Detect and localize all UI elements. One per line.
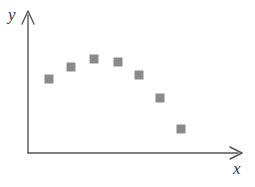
data-point-marker	[45, 75, 54, 84]
data-point-marker	[156, 94, 165, 103]
x-axis-label: x	[233, 160, 241, 177]
scatter-plot-figure: y x	[0, 0, 255, 187]
y-axis-label: y	[8, 6, 16, 23]
data-point-marker	[135, 71, 144, 80]
data-point-marker	[90, 55, 99, 64]
data-point-marker	[177, 125, 186, 134]
data-point-marker	[67, 63, 76, 72]
data-points-group	[45, 55, 186, 134]
plot-canvas	[0, 0, 255, 187]
axes-group	[22, 11, 242, 159]
data-point-marker	[114, 58, 123, 67]
